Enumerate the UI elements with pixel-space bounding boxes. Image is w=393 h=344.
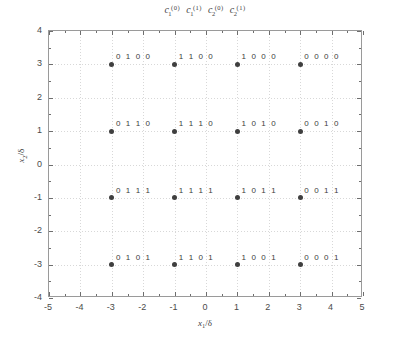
data-point-label: 1 1 1 0: [179, 119, 215, 128]
data-point-label: 0 0 1 1: [304, 186, 340, 195]
data-point-label: 1 0 0 1: [242, 253, 278, 262]
data-point-label: 1 0 1 1: [242, 186, 278, 195]
data-point-label: 1 1 1 1: [179, 186, 215, 195]
title-term: c1(1): [186, 4, 202, 17]
y-tick-label: 2: [22, 92, 42, 102]
x-tick-label: 4: [328, 302, 333, 312]
y-axis-tick: [49, 298, 53, 299]
y-tick-label: -3: [22, 259, 42, 269]
data-point: [172, 62, 177, 67]
data-point-label: 0 1 0 0: [116, 52, 152, 61]
y-tick-label: -2: [22, 225, 42, 235]
data-point: [172, 262, 177, 267]
data-point: [235, 62, 240, 67]
x-tick-label: -2: [138, 302, 146, 312]
data-point-label: 1 1 0 1: [179, 253, 215, 262]
data-point-label: 0 1 0 1: [116, 253, 152, 262]
data-point: [109, 195, 114, 200]
y-axis-label: x2/δ: [16, 126, 27, 186]
data-point: [172, 129, 177, 134]
marker-layer: 0 1 0 01 1 0 01 0 0 00 0 0 00 1 1 01 1 1…: [49, 31, 361, 296]
data-point: [109, 62, 114, 67]
x-tick-label: -3: [107, 302, 115, 312]
title-term: c1(0): [164, 4, 180, 17]
data-point-label: 0 0 0 1: [304, 253, 340, 262]
chart-title: c1(0)c1(1)c2(0)c2(1): [48, 4, 362, 17]
data-point: [298, 129, 303, 134]
data-point-label: 1 1 0 0: [179, 52, 215, 61]
y-tick-label: -4: [22, 292, 42, 302]
data-point-label: 0 1 1 0: [116, 119, 152, 128]
y-tick-label: 3: [22, 58, 42, 68]
x-tick-label: -1: [170, 302, 178, 312]
data-point: [298, 62, 303, 67]
y-tick-label: 4: [22, 25, 42, 35]
data-point-label: 1 0 0 0: [242, 52, 278, 61]
x-tick-label: -4: [75, 302, 83, 312]
y-axis-tick: [357, 298, 361, 299]
x-tick-label: 1: [234, 302, 239, 312]
data-point: [298, 195, 303, 200]
y-tick-label: -1: [22, 192, 42, 202]
x-axis-label: x1/δ: [48, 318, 362, 329]
x-tick-label: 0: [202, 302, 207, 312]
data-point: [109, 262, 114, 267]
x-axis-tick: [363, 31, 364, 35]
data-point: [235, 129, 240, 134]
x-tick-label: 5: [359, 302, 364, 312]
data-point-label: 1 0 1 0: [242, 119, 278, 128]
scatter-plot-figure: c1(0)c1(1)c2(0)c2(1) 0 1 0 01 1 0 01 0 0…: [0, 0, 393, 344]
x-tick-label: -5: [44, 302, 52, 312]
title-term: c2(0): [208, 4, 224, 17]
x-axis-tick: [363, 292, 364, 296]
data-point: [298, 262, 303, 267]
data-point-label: 0 0 1 0: [304, 119, 340, 128]
data-point-label: 0 1 1 1: [116, 186, 152, 195]
plot-area: 0 1 0 01 1 0 01 0 0 00 0 0 00 1 1 01 1 1…: [48, 30, 362, 297]
data-point: [172, 195, 177, 200]
data-point: [235, 195, 240, 200]
data-point-label: 0 0 0 0: [304, 52, 340, 61]
data-point: [235, 262, 240, 267]
x-tick-label: 3: [297, 302, 302, 312]
data-point: [109, 129, 114, 134]
x-tick-label: 2: [265, 302, 270, 312]
title-term: c2(1): [230, 4, 246, 17]
